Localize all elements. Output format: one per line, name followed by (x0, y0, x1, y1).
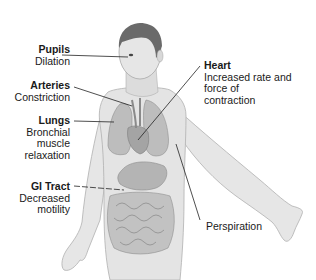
label-heart-desc-2: force of (204, 83, 292, 95)
label-heart-title: Heart (204, 60, 292, 72)
label-gi-tract-desc-2: motility (19, 204, 70, 216)
label-arteries-desc: Constriction (15, 92, 70, 104)
intestines (107, 192, 174, 254)
eye (129, 54, 133, 56)
ear (157, 50, 163, 62)
label-perspiration-desc: Perspiration (206, 221, 262, 233)
label-pupils: Pupils Dilation (35, 44, 70, 67)
label-gi-tract-title: GI Tract (19, 181, 70, 193)
label-arteries-title: Arteries (15, 80, 70, 92)
label-gi-tract: GI Tract Decreased motility (19, 181, 70, 216)
label-arteries: Arteries Constriction (15, 80, 70, 103)
label-lungs-title: Lungs (24, 115, 70, 127)
pupils-leader-line (62, 55, 128, 57)
label-heart-desc-3: contraction (204, 95, 292, 107)
label-lungs-desc-3: relaxation (24, 150, 70, 162)
label-perspiration: Perspiration (206, 221, 262, 233)
label-lungs: Lungs Bronchial muscle relaxation (24, 115, 70, 161)
label-pupils-desc: Dilation (35, 56, 70, 68)
label-lungs-desc-2: muscle (24, 138, 70, 150)
label-heart: Heart Increased rate and force of contra… (204, 60, 292, 106)
label-pupils-title: Pupils (35, 44, 70, 56)
